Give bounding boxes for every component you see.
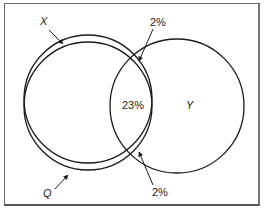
label-center-pct: 23% (122, 100, 144, 111)
arrow-top-pct (139, 29, 153, 61)
label-top-pct: 2% (150, 17, 166, 28)
arrow-bottom-pct (139, 152, 153, 185)
label-bottom-pct: 2% (152, 187, 168, 198)
arrow-x (49, 30, 63, 44)
label-y: Y (186, 100, 193, 111)
label-q: Q (43, 188, 52, 199)
arrow-q (55, 175, 68, 189)
label-x: X (40, 16, 47, 27)
